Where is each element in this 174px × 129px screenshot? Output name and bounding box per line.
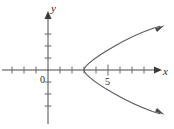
y-axis-label: y [50,2,56,14]
x-axis-arrow-icon [154,67,162,74]
origin-tick-label: 0 [40,74,45,85]
parabola-figure: x y 0 5 [0,0,174,129]
plot-canvas: x y 0 5 [0,0,174,129]
x-tick-label-5: 5 [105,76,110,87]
x-axis-label: x [162,65,168,77]
